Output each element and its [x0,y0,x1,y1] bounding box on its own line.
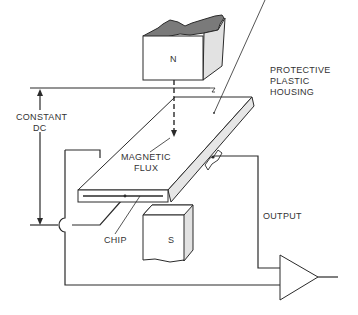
constant-dc-arrowhead-down [37,218,43,225]
output-label: OUTPUT [263,211,302,221]
amplifier-triangle [280,255,318,300]
left-upper-wire [65,150,100,158]
chip-label: CHIP [104,235,127,245]
constant-dc-arrowhead-up [37,89,43,96]
chip-contact-point [124,195,127,198]
bottom-supply-wire-right [72,200,122,225]
south-magnet-front [143,215,184,262]
housing-label-line3: HOUSING [270,87,314,97]
magnetic-flux-label-line2: FLUX [134,163,158,173]
housing-label-line1: PROTECTIVE [270,65,331,75]
magnetic-flux-label-line1: MAGNETIC [121,152,171,162]
south-magnet: S [143,205,193,262]
protective-housing [78,97,254,202]
hall-effect-diagram: N CONSTANT DC S MAGNETIC FLUX PROTECTIVE… [0,0,358,315]
constant-dc-label-line1: CONSTANT [16,112,67,122]
housing-top-face [78,97,252,190]
constant-dc-label-line2: DC [33,123,47,133]
south-magnet-top [143,205,193,215]
top-wire-jog [210,88,215,92]
housing-leader-dot [213,112,215,114]
north-magnet: N [143,15,225,80]
north-pole-label: N [170,54,177,64]
south-pole-label: S [168,235,174,245]
housing-label-line2: PLASTIC [270,76,310,86]
